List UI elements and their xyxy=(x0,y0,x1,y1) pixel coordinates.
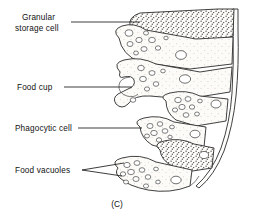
nucleus-granular-lower xyxy=(199,151,208,158)
nucleus-bottom xyxy=(171,176,181,184)
nucleus-upper xyxy=(176,51,187,60)
label-phagocytic-cell: Phagocytic cell xyxy=(15,124,72,133)
label-food-cup: Food cup xyxy=(17,83,53,92)
label-granular-storage-cell: Granular storage cell xyxy=(15,13,59,33)
cell-diagram-svg: Granular storage cell Food cup Phagocyti… xyxy=(0,0,255,217)
nucleus-food-cup-cell xyxy=(179,75,190,83)
nucleus-labelled-phagocyte xyxy=(190,130,200,138)
epithelium-mass xyxy=(114,9,238,191)
nucleus-middle-right xyxy=(211,100,221,108)
label-food-vacuoles: Food vacuoles xyxy=(15,166,70,175)
figure-caption: (C) xyxy=(111,199,123,209)
figure-container: Granular storage cell Food cup Phagocyti… xyxy=(0,0,255,217)
label-granular-storage-cell-line1: Granular xyxy=(22,13,55,22)
label-granular-storage-cell-line2: storage cell xyxy=(15,24,59,33)
leader-food-vacuoles-lower xyxy=(82,170,122,176)
